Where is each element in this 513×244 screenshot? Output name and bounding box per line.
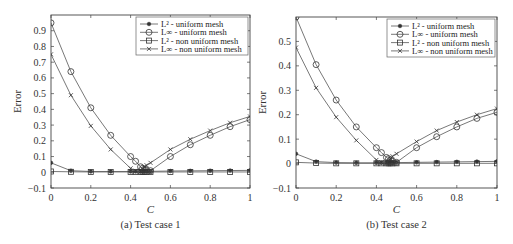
x-tick-label: 0.2 bbox=[85, 192, 98, 203]
x-tick-label: 0 bbox=[49, 192, 54, 203]
chart-caption: (b) Test case 2 bbox=[366, 219, 427, 231]
legend: L² - uniform meshL∞ - uniform meshL² - n… bbox=[387, 19, 495, 57]
y-tick-label: 0.3 bbox=[34, 120, 47, 131]
y-tick-label: 0.1 bbox=[279, 134, 292, 145]
series-markers-3 bbox=[294, 46, 499, 165]
y-tick-label: 0.3 bbox=[279, 85, 292, 96]
y-axis-label: Error bbox=[11, 90, 23, 114]
x-tick-label: 0.6 bbox=[164, 192, 177, 203]
x-tick-label: 0.4 bbox=[124, 192, 137, 203]
chart-caption: (a) Test case 1 bbox=[120, 219, 180, 231]
y-tick-label: 0.5 bbox=[279, 36, 292, 47]
series-markers-3 bbox=[49, 52, 252, 173]
y-axis-label: Error bbox=[256, 91, 268, 115]
series-line-3 bbox=[296, 48, 497, 163]
y-tick-label: 0.8 bbox=[34, 41, 47, 52]
figure: 00.20.40.60.81−0.100.10.20.30.40.50.60.7… bbox=[0, 0, 513, 244]
y-tick-label: 0.6 bbox=[34, 72, 47, 83]
x-tick-label: 1 bbox=[495, 192, 500, 203]
x-tick-label: 0.6 bbox=[410, 192, 423, 203]
x-axis-label: C bbox=[393, 203, 401, 215]
legend-entry-label: L∞ - non uniform mesh bbox=[412, 46, 493, 56]
y-tick-label: 0.1 bbox=[34, 151, 47, 162]
y-tick-label: 0.2 bbox=[279, 109, 292, 120]
y-tick-label: −0.1 bbox=[273, 183, 291, 194]
y-tick-label: −0.1 bbox=[28, 183, 46, 194]
x-tick-label: 1 bbox=[248, 192, 253, 203]
legend: L² - uniform meshL∞ - uniform meshL² - n… bbox=[136, 17, 248, 55]
y-tick-label: 0 bbox=[41, 167, 46, 178]
x-tick-label: 0.8 bbox=[451, 192, 464, 203]
x-tick-label: 0.8 bbox=[204, 192, 217, 203]
y-tick-label: 0 bbox=[286, 158, 291, 169]
x-tick-label: 0.4 bbox=[370, 192, 383, 203]
y-tick-label: 0.2 bbox=[34, 135, 47, 146]
y-tick-label: 0.5 bbox=[34, 88, 47, 99]
x-tick-label: 0.2 bbox=[330, 192, 343, 203]
legend-entry-label: L∞ - non uniform mesh bbox=[161, 44, 242, 54]
y-tick-label: 0.4 bbox=[34, 104, 47, 115]
y-tick-label: 0.7 bbox=[34, 57, 47, 68]
chart-panel-b: 00.20.40.60.81−0.100.10.20.30.40.5CError… bbox=[256, 14, 500, 231]
y-tick-label: 0.9 bbox=[34, 25, 47, 36]
series-line-3 bbox=[51, 54, 250, 171]
y-tick-label: 0.4 bbox=[279, 60, 292, 71]
chart-panel-a: 00.20.40.60.81−0.100.10.20.30.40.50.60.7… bbox=[11, 15, 253, 231]
x-axis-label: C bbox=[147, 203, 155, 215]
x-tick-label: 0 bbox=[294, 192, 299, 203]
line-charts: 00.20.40.60.81−0.100.10.20.30.40.50.60.7… bbox=[0, 0, 513, 244]
